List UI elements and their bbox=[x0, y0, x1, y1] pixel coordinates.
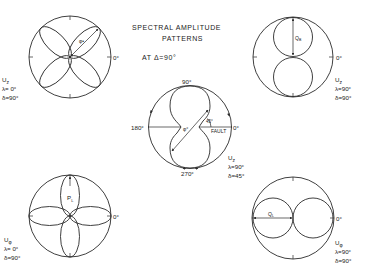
svg-text:Uz: Uz bbox=[2, 76, 9, 85]
diagram-top-left: φ• 0° Uz λ= 0° δ=90° bbox=[2, 16, 119, 101]
delta: δ=90° bbox=[2, 94, 19, 101]
component-sub: φ bbox=[8, 239, 12, 245]
measure-sub: L bbox=[272, 214, 274, 218]
axis-label-0: 0° bbox=[113, 213, 119, 220]
axis-label-0: 0° bbox=[336, 215, 342, 222]
measure-label: φ° bbox=[183, 126, 188, 132]
component-sub: z bbox=[339, 79, 342, 85]
lambda: λ=90° bbox=[335, 85, 352, 92]
axis-label-180: 180° bbox=[131, 124, 144, 131]
axis-label-0: 0° bbox=[113, 54, 119, 61]
measure-sub: B bbox=[299, 38, 302, 42]
lower-lobe bbox=[274, 58, 313, 97]
lambda: λ=90° bbox=[228, 163, 245, 170]
svg-text:Uφ: Uφ bbox=[335, 239, 343, 248]
delta: δ=45° bbox=[228, 172, 245, 179]
component-sub: z bbox=[6, 79, 9, 85]
angle-label: 45° bbox=[206, 119, 213, 124]
fault-label: FAULT bbox=[211, 128, 226, 134]
title-line-1: SPECTRAL AMPLITUDE bbox=[132, 24, 221, 31]
parameters: Uφ λ= 0° δ=90° bbox=[4, 236, 21, 261]
axis-label-0: 0° bbox=[233, 124, 239, 131]
parameters: Uφ λ=90° δ=90° bbox=[335, 239, 352, 264]
diagram-center: 90° 180° 0° 270° 45° FAULT φ° Uz λ=90° δ… bbox=[131, 78, 245, 179]
svg-text:QL: QL bbox=[268, 211, 274, 218]
measure-label: φ• bbox=[79, 38, 84, 44]
svg-text:Uφ: Uφ bbox=[4, 236, 12, 245]
parameters: Uz λ= 0° δ=90° bbox=[2, 76, 19, 101]
measure-sub: L bbox=[71, 198, 74, 203]
right-lobe bbox=[293, 198, 333, 238]
svg-text:Uz: Uz bbox=[335, 76, 342, 85]
component-sub: z bbox=[232, 157, 235, 163]
lambda: λ= 0° bbox=[2, 85, 17, 92]
title-line-3: AT Δ=90° bbox=[142, 54, 176, 61]
diagram-bottom-left: PL 0° Uφ λ= 0° δ=90° bbox=[4, 175, 119, 261]
measure-arrow bbox=[71, 29, 98, 56]
svg-text:PL: PL bbox=[67, 194, 74, 203]
axis-label-90: 90° bbox=[182, 78, 192, 85]
parameters: Uz λ=90° δ=45° bbox=[228, 154, 245, 179]
parameters: Uz λ=90° δ=90° bbox=[335, 76, 352, 101]
diagram-top-right: QB 0° Uz λ=90° δ=90° bbox=[253, 17, 352, 101]
svg-text:QB: QB bbox=[295, 35, 302, 42]
lambda: λ= 0° bbox=[4, 245, 19, 252]
measure-arrow bbox=[172, 110, 208, 151]
delta: δ=90° bbox=[335, 94, 352, 101]
diagram-bottom-right: QL 0° Uφ λ=90° δ=90° bbox=[252, 177, 352, 264]
lambda: λ=90° bbox=[335, 248, 352, 255]
title-block: SPECTRAL AMPLITUDE PATTERNS AT Δ=90° bbox=[132, 24, 221, 61]
delta: δ=90° bbox=[335, 257, 352, 264]
title-line-2: PATTERNS bbox=[162, 35, 203, 42]
delta: δ=90° bbox=[4, 254, 21, 261]
component-sub: φ bbox=[339, 242, 343, 248]
svg-text:Uz: Uz bbox=[228, 154, 235, 163]
axis-label-270: 270° bbox=[181, 170, 194, 177]
spectral-amplitude-diagram: SPECTRAL AMPLITUDE PATTERNS AT Δ=90° φ• … bbox=[0, 0, 371, 273]
axis-label-0: 0° bbox=[336, 54, 342, 61]
